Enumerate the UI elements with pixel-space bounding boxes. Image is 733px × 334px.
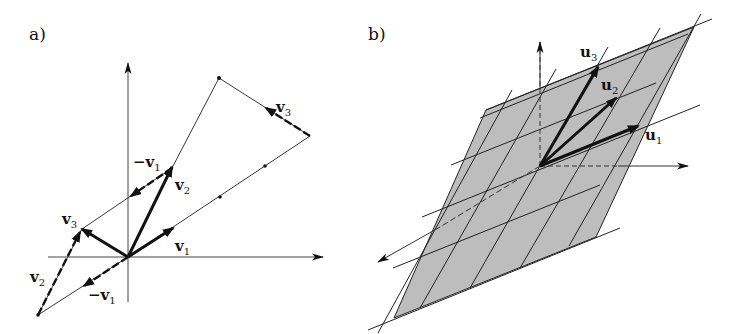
vector-neg-v1-bottom [84, 257, 128, 286]
label-v3-top-right: v3 [275, 98, 291, 118]
label-v3: v3 [61, 210, 77, 230]
vector-v2-translated [38, 232, 80, 315]
label-v2: v2 [174, 176, 190, 196]
label-neg-v1-top: −v1 [133, 153, 161, 173]
tick-dots [36, 76, 267, 317]
figure: a) [0, 0, 733, 334]
panel-a-label: a) [29, 24, 46, 44]
label-neg-v1-bottom: −v1 [88, 286, 116, 306]
panel-b: b) [368, 14, 712, 333]
vector-v3 [82, 229, 128, 257]
label-u3: u3 [580, 43, 597, 63]
panel-a: a) [29, 24, 323, 317]
label-v2-left: v2 [29, 268, 45, 288]
construction-lines [38, 78, 310, 315]
label-u1: u1 [645, 126, 662, 146]
panel-b-label: b) [368, 24, 386, 44]
label-v1: v1 [174, 237, 190, 257]
